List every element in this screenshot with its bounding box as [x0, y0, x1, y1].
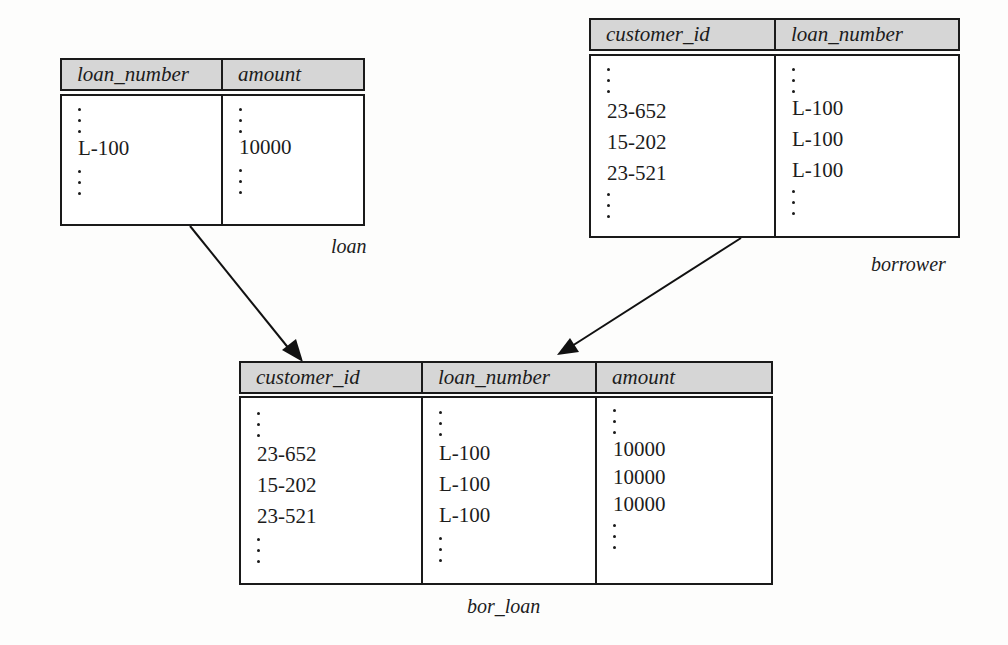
cell: 23-521: [257, 501, 421, 532]
cell: L-100: [792, 124, 958, 155]
arrow-borrower-to-bor-loan: [557, 238, 741, 355]
cell: 23-521: [607, 158, 774, 189]
bor-loan-column-amount: 10000 10000 10000: [595, 398, 771, 583]
loan-column-amount: 10000: [221, 96, 363, 224]
table-caption-loan: loan: [331, 235, 367, 258]
cell: 15-202: [257, 470, 421, 501]
column-header: customer_id: [591, 20, 774, 49]
arrow-loan-to-bor-loan: [190, 226, 303, 362]
ellipsis-icon: [613, 524, 617, 549]
ellipsis-icon: [78, 108, 82, 133]
ellipsis-icon: [607, 193, 611, 218]
borrower-column-customer-id: 23-652 15-202 23-521: [591, 56, 774, 236]
ellipsis-icon: [613, 409, 617, 434]
column-header: amount: [221, 60, 363, 89]
ellipsis-icon: [607, 68, 611, 93]
bor-loan-column-loan-number: L-100 L-100 L-100: [421, 398, 595, 583]
cell: 10000: [613, 435, 771, 464]
cell: L-100: [792, 155, 958, 186]
ellipsis-icon: [78, 170, 82, 195]
bor-loan-column-customer-id: 23-652 15-202 23-521: [241, 398, 421, 583]
bor-loan-body: 23-652 15-202 23-521 L-100 L-100 L-100 1…: [239, 396, 773, 585]
table-caption-borrower: borrower: [871, 253, 946, 276]
cell: 23-652: [607, 96, 774, 127]
cell: L-100: [439, 438, 595, 469]
loan-header-row: loan_number amount: [60, 58, 365, 91]
column-header: amount: [595, 363, 771, 392]
cell: L-100: [78, 133, 221, 164]
column-header: loan_number: [421, 363, 595, 392]
loan-column-loan-number: L-100: [62, 96, 221, 224]
cell: L-100: [792, 93, 958, 124]
column-header: loan_number: [774, 20, 958, 49]
ellipsis-icon: [257, 412, 261, 437]
cell: L-100: [439, 500, 595, 531]
loan-body: L-100 10000: [60, 94, 365, 226]
table-caption-bor-loan: bor_loan: [467, 595, 540, 618]
borrower-header-row: customer_id loan_number: [589, 18, 960, 51]
cell: L-100: [439, 469, 595, 500]
ellipsis-icon: [792, 68, 796, 93]
ellipsis-icon: [257, 538, 261, 563]
cell: 10000: [613, 464, 771, 491]
borrower-body: 23-652 15-202 23-521 L-100 L-100 L-100: [589, 54, 960, 238]
cell: 10000: [239, 132, 363, 163]
borrower-column-loan-number: L-100 L-100 L-100: [774, 56, 958, 236]
cell: 10000: [613, 491, 771, 518]
ellipsis-icon: [439, 411, 443, 436]
column-header: loan_number: [62, 60, 221, 89]
ellipsis-icon: [439, 537, 443, 562]
ellipsis-icon: [239, 108, 243, 133]
ellipsis-icon: [792, 190, 796, 215]
column-header: customer_id: [241, 363, 421, 392]
ellipsis-icon: [239, 169, 243, 194]
bor-loan-header-row: customer_id loan_number amount: [239, 361, 773, 394]
cell: 23-652: [257, 439, 421, 470]
cell: 15-202: [607, 127, 774, 158]
